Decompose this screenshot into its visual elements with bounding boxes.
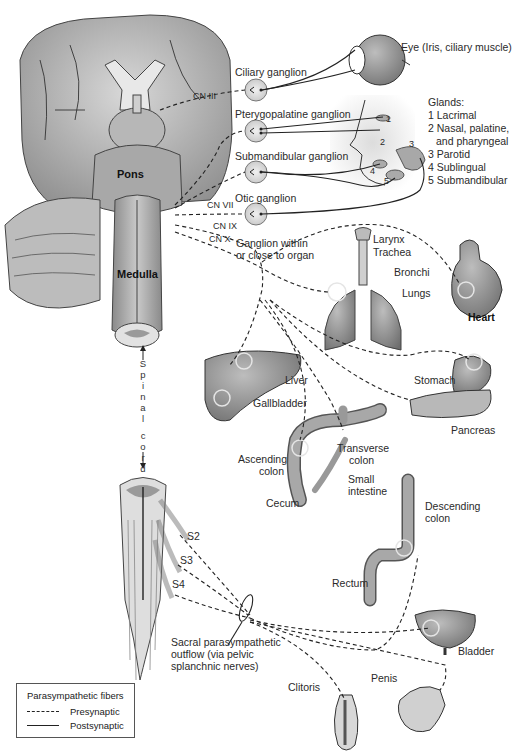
submandibular-ganglion-label: Submandibular ganglion: [235, 150, 348, 162]
cn-ix-label: CN IX: [213, 220, 237, 232]
larynx-label: Larynx: [373, 233, 405, 245]
spinal-letter: l: [137, 413, 149, 424]
ascending-colon-label-2: colon: [238, 465, 284, 477]
genitalia-illustration: [334, 687, 445, 750]
liver-label: Liver: [285, 374, 308, 386]
gland-item: 3 Parotid: [428, 148, 509, 161]
legend-title: Parasympathetic fibers: [27, 690, 124, 701]
cn-vii-label: CN VII: [207, 199, 234, 211]
cecum-label: Cecum: [266, 497, 299, 509]
colon-illustration: [292, 410, 412, 600]
s2-label: S2: [187, 530, 200, 542]
gland-item: 2 Nasal, palatine,: [428, 122, 509, 135]
spinal-letter: p: [137, 369, 149, 380]
gland-item-continued: and pharyngeal: [428, 135, 509, 148]
legend-item-presynaptic: Presynaptic: [27, 705, 120, 717]
spinal-letter: n: [137, 391, 149, 402]
transverse-colon-label-2: colon: [349, 454, 374, 466]
gallbladder-label: Gallbladder: [253, 397, 307, 409]
descending-colon-label-2: colon: [425, 512, 450, 524]
lungs-label: Lungs: [402, 287, 431, 299]
gland-item: 5 Submandibular: [428, 174, 509, 187]
clitoris-label: Clitoris: [288, 681, 320, 693]
legend-label: Postsynaptic: [70, 720, 124, 731]
legend: Parasympathetic fibers Presynaptic Posts…: [16, 683, 135, 738]
trachea-label: Trachea: [373, 246, 411, 258]
s3-label: S3: [180, 554, 193, 566]
heart-label: Heart: [468, 311, 495, 323]
ascending-colon-label-1: Ascending: [238, 453, 284, 465]
pons-label: Pons: [117, 168, 144, 180]
spinal-letter: S: [137, 358, 149, 369]
sacral-outflow-label-1: Sacral parasympathetic: [171, 636, 281, 648]
bronchi-label: Bronchi: [394, 266, 430, 278]
dashed-line-icon: [27, 711, 59, 712]
legend-item-postsynaptic: Postsynaptic: [27, 719, 124, 731]
spinal-letter: o: [137, 441, 149, 452]
face-number-3: 3: [409, 138, 414, 150]
ganglion-near-organ-label-2: or close to organ: [236, 249, 314, 261]
sacral-outflow-label-3: splanchnic nerves): [171, 660, 259, 672]
glands-title: Glands:: [428, 96, 509, 109]
face-number-2: 2: [380, 136, 385, 148]
spinal-letter: r: [137, 452, 149, 463]
sacral-outflow-label-2: outflow (via pelvic: [171, 648, 254, 660]
brain-illustration: [5, 15, 232, 360]
pterygopalatine-ganglion-label: Pterygopalatine ganglion: [235, 108, 351, 120]
heart-illustration: [452, 240, 502, 318]
pancreas-label: Pancreas: [451, 424, 495, 436]
gland-item: 1 Lacrimal: [428, 109, 509, 122]
small-intestine-label-2: intestine: [348, 485, 387, 497]
gland-item: 4 Sublingual: [428, 161, 509, 174]
face-number-4: 4: [370, 165, 375, 177]
s4-label: S4: [172, 578, 185, 590]
spinal-cord-label: S p i n a l c o r d: [137, 358, 149, 474]
transverse-colon-label-1: Transverse: [337, 442, 389, 454]
ciliary-ganglion-label: Ciliary ganglion: [235, 66, 307, 78]
solid-line-icon: [27, 725, 59, 726]
otic-ganglion-label: Otic ganglion: [235, 192, 296, 204]
descending-colon-label-1: Descending: [425, 500, 480, 512]
spinal-letter: i: [137, 380, 149, 391]
eye-label: Eye (Iris, ciliary muscle): [401, 41, 512, 53]
rectum-label: Rectum: [332, 577, 368, 589]
stomach-label: Stomach: [414, 374, 455, 386]
spinal-letter: d: [137, 463, 149, 474]
bladder-label: Bladder: [458, 645, 494, 657]
legend-label: Presynaptic: [70, 706, 120, 717]
penis-label: Penis: [371, 672, 397, 684]
face-number-5: 5: [384, 175, 389, 187]
small-intestine-label-1: Small: [348, 473, 374, 485]
face-number-1: 1: [386, 113, 391, 125]
spinal-letter: c: [137, 430, 149, 441]
glands-list: Glands: 1 Lacrimal 2 Nasal, palatine, an…: [428, 96, 509, 187]
spinal-letter: a: [137, 402, 149, 413]
ganglion-near-organ-label-1: Ganglion within: [236, 237, 308, 249]
cn-iii-label: CN III: [193, 90, 216, 102]
medulla-label: Medulla: [117, 268, 158, 280]
cn-x-label: CN X: [209, 233, 231, 245]
